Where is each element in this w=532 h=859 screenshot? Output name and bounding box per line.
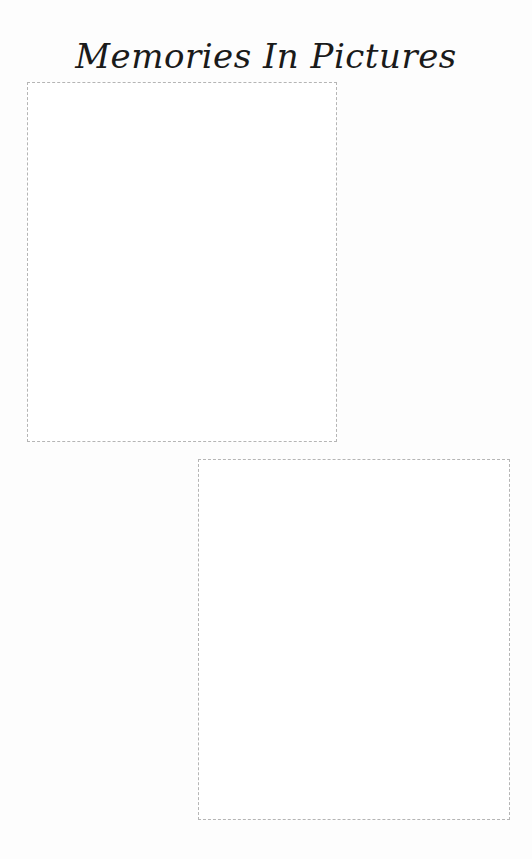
photo-frame-1[interactable] [27, 82, 337, 442]
photo-frame-2[interactable] [198, 459, 510, 820]
page-title: Memories In Pictures [0, 36, 532, 76]
